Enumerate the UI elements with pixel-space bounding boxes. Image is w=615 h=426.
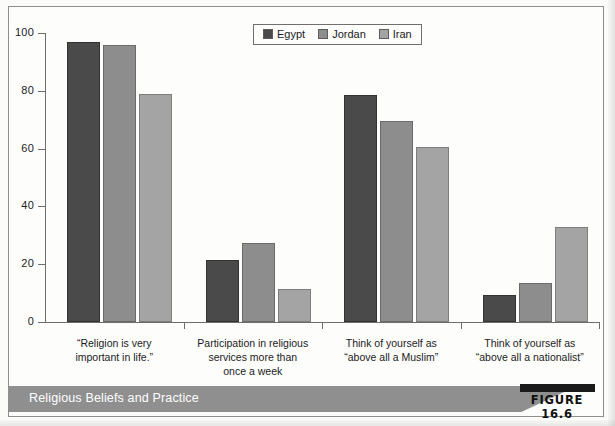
legend-swatch-egypt bbox=[263, 29, 273, 39]
y-tick-label-20: 20 bbox=[0, 257, 34, 269]
bar-egypt-group2 bbox=[206, 260, 239, 322]
legend-item-jordan: Jordan bbox=[318, 28, 366, 40]
x-tick-3 bbox=[461, 322, 462, 329]
category-label-line: Think of yourself as bbox=[322, 336, 461, 350]
category-label-line: Think of yourself as bbox=[461, 336, 600, 350]
bar-jordan-group1 bbox=[103, 45, 136, 322]
legend-swatch-jordan bbox=[318, 29, 328, 39]
y-tick-0 bbox=[38, 322, 46, 323]
figure-number-tag: FIGURE 16.6 bbox=[516, 384, 598, 421]
category-label-4: Think of yourself as“above all a nationa… bbox=[461, 336, 600, 364]
bar-iran-group2 bbox=[278, 289, 311, 322]
category-label-line: “above all a Muslim” bbox=[322, 350, 461, 364]
category-label-line: important in life.” bbox=[45, 350, 184, 364]
category-label-1: “Religion is veryimportant in life.” bbox=[45, 336, 184, 364]
figure-tag-bar bbox=[520, 384, 595, 392]
bar-egypt-group3 bbox=[344, 95, 377, 322]
bar-iran-group1 bbox=[139, 94, 172, 322]
figure-number-label: FIGURE 16.6 bbox=[516, 393, 598, 421]
bar-jordan-group3 bbox=[380, 121, 413, 322]
category-label-2: Participation in religiousservices more … bbox=[184, 336, 323, 378]
category-label-line: services more than bbox=[184, 350, 323, 364]
bar-iran-group4 bbox=[555, 227, 588, 322]
legend-item-egypt: Egypt bbox=[263, 28, 305, 40]
figure-caption: Religious Beliefs and Practice bbox=[29, 391, 199, 405]
bar-jordan-group2 bbox=[242, 243, 275, 322]
y-tick-label-100: 100 bbox=[0, 26, 34, 38]
bars-layer bbox=[45, 33, 599, 322]
figure-footer-band: Religious Beliefs and Practice bbox=[9, 386, 604, 412]
legend-item-iran: Iran bbox=[379, 28, 412, 40]
bar-egypt-group4 bbox=[483, 295, 516, 322]
page-edge-shadow-bottom bbox=[0, 420, 615, 426]
x-tick-end bbox=[599, 322, 600, 329]
category-label-line: once a week bbox=[184, 364, 323, 378]
legend-label-egypt: Egypt bbox=[277, 28, 305, 40]
bar-jordan-group4 bbox=[519, 283, 552, 322]
x-tick-2 bbox=[322, 322, 323, 329]
y-tick-label-0: 0 bbox=[0, 315, 34, 327]
y-tick-label-80: 80 bbox=[0, 84, 34, 96]
page-edge-shadow-right bbox=[608, 0, 615, 426]
chart-legend: Egypt Jordan Iran bbox=[253, 24, 422, 45]
category-label-line: Participation in religious bbox=[184, 336, 323, 350]
y-tick-label-40: 40 bbox=[0, 199, 34, 211]
category-label-3: Think of yourself as“above all a Muslim” bbox=[322, 336, 461, 364]
figure-container: 020406080100 “Religion is veryimportant … bbox=[0, 0, 615, 426]
legend-label-jordan: Jordan bbox=[332, 28, 366, 40]
legend-swatch-iran bbox=[379, 29, 389, 39]
x-tick-1 bbox=[184, 322, 185, 329]
category-label-line: “above all a nationalist” bbox=[461, 350, 600, 364]
y-tick-label-60: 60 bbox=[0, 142, 34, 154]
bar-egypt-group1 bbox=[67, 42, 100, 322]
bar-iran-group3 bbox=[416, 147, 449, 322]
category-label-line: “Religion is very bbox=[45, 336, 184, 350]
legend-label-iran: Iran bbox=[393, 28, 412, 40]
